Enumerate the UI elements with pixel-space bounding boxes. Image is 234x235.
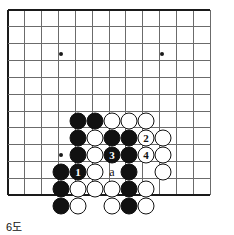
stone-white[interactable]: [70, 198, 87, 215]
diagram-caption: 6도: [6, 218, 22, 234]
grid-line-vertical: [142, 10, 143, 195]
grid-line-horizontal: [8, 43, 210, 44]
stone-white[interactable]: [70, 181, 87, 198]
stone-black[interactable]: [70, 147, 87, 164]
stone-white[interactable]: [87, 181, 104, 198]
stone-white[interactable]: [155, 147, 172, 164]
stone-black[interactable]: [70, 130, 87, 147]
grid-line-horizontal: [8, 94, 210, 95]
numbered-stone-white-2[interactable]: 2: [138, 130, 155, 147]
grid-line-horizontal: [8, 60, 210, 61]
grid-line-vertical: [176, 10, 177, 195]
star-point: [160, 52, 164, 56]
stone-black[interactable]: [121, 198, 138, 215]
grid-line-horizontal: [8, 77, 210, 78]
stone-white[interactable]: [138, 181, 155, 198]
stone-black[interactable]: [87, 113, 104, 130]
grid-line-horizontal: [8, 111, 210, 112]
stone-white[interactable]: [138, 113, 155, 130]
stone-white[interactable]: [104, 113, 121, 130]
grid-line-vertical: [24, 10, 25, 195]
star-point: [59, 153, 63, 157]
stone-black[interactable]: [121, 181, 138, 198]
go-diagram-root: 2341 a 6도: [0, 0, 234, 235]
stone-black[interactable]: [53, 164, 70, 181]
stone-white[interactable]: [87, 147, 104, 164]
stone-white[interactable]: [104, 181, 121, 198]
numbered-stone-black-1[interactable]: 1: [70, 164, 87, 181]
stone-white[interactable]: [155, 130, 172, 147]
grid-line-horizontal: [8, 9, 210, 11]
stone-white[interactable]: [104, 198, 121, 215]
stone-black[interactable]: [121, 130, 138, 147]
stone-black[interactable]: [104, 130, 121, 147]
numbered-stone-white-4[interactable]: 4: [138, 147, 155, 164]
point-label-a[interactable]: a: [109, 165, 114, 180]
star-point: [59, 52, 63, 56]
stone-white[interactable]: [121, 113, 138, 130]
stone-white[interactable]: [87, 130, 104, 147]
stone-black[interactable]: [53, 181, 70, 198]
stone-black[interactable]: [121, 147, 138, 164]
stone-black[interactable]: [70, 113, 87, 130]
stone-black[interactable]: [121, 164, 138, 181]
go-board[interactable]: 2341 a: [0, 0, 234, 216]
stone-white[interactable]: [138, 198, 155, 215]
grid-line-vertical: [41, 10, 42, 195]
stone-white[interactable]: [155, 164, 172, 181]
grid-line-vertical: [210, 10, 211, 195]
stone-white[interactable]: [87, 164, 104, 181]
grid-line-vertical: [193, 10, 194, 195]
numbered-stone-black-3[interactable]: 3: [104, 147, 121, 164]
grid-line-horizontal: [8, 26, 210, 27]
stone-black[interactable]: [53, 198, 70, 215]
grid-line-vertical: [7, 10, 9, 195]
